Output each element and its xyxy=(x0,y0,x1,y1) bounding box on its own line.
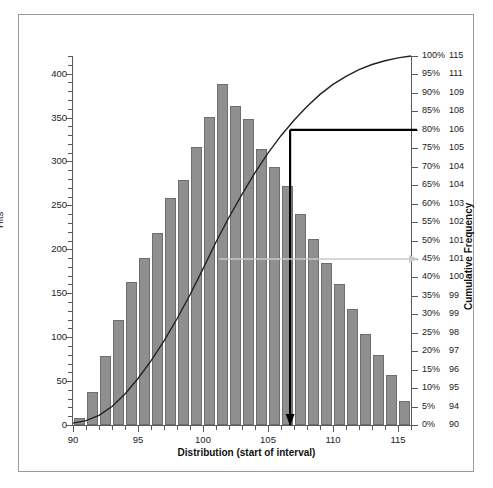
x-tick xyxy=(255,425,256,430)
x-tick xyxy=(372,425,373,430)
y2-tick xyxy=(412,370,418,371)
y2-tick-label: 5%94 xyxy=(422,401,459,411)
x-tick xyxy=(294,425,295,430)
y2-tick-label: 35%99 xyxy=(422,290,459,300)
cumulative-curve xyxy=(73,56,411,423)
x-tick-label: 115 xyxy=(390,434,405,445)
x-tick xyxy=(359,425,360,430)
x-tick xyxy=(164,425,165,430)
y-tick-label: 400 xyxy=(51,68,67,79)
plot-area: 050100150200250300350400 0%905%9410%9515… xyxy=(73,56,411,425)
y-tick-label: 0 xyxy=(62,419,67,430)
x-tick xyxy=(242,425,243,430)
x-axis-title: Distribution (start of interval) xyxy=(0,447,493,458)
y2-tick-label: 50%101 xyxy=(422,235,464,245)
x-tick xyxy=(138,425,139,432)
y-tick-label: 200 xyxy=(51,243,67,254)
x-tick-label: 90 xyxy=(68,434,79,445)
y2-tick xyxy=(412,388,418,389)
y2-tick-label: 20%97 xyxy=(422,345,459,355)
y-tick-label: 250 xyxy=(51,199,67,210)
x-tick xyxy=(112,425,113,430)
y-tick xyxy=(66,337,73,338)
x-tick xyxy=(216,425,217,430)
y2-tick xyxy=(412,167,418,168)
x-tick-label: 105 xyxy=(260,434,276,445)
x-tick xyxy=(177,425,178,430)
y-tick xyxy=(66,249,73,250)
y2-tick xyxy=(412,222,418,223)
x-tick xyxy=(320,425,321,430)
y-tick-label: 150 xyxy=(51,287,67,298)
y2-tick xyxy=(412,425,418,426)
y2-tick-label: 70%104 xyxy=(422,161,464,171)
y2-tick xyxy=(412,185,418,186)
y2-tick xyxy=(412,148,418,149)
y2-tick-label: 40%100 xyxy=(422,271,464,281)
y-tick-label: 350 xyxy=(51,112,67,123)
x-tick xyxy=(203,425,204,432)
x-tick xyxy=(411,425,412,430)
y-tick-label: 300 xyxy=(51,155,67,166)
x-tick xyxy=(398,425,399,432)
y2-tick xyxy=(412,407,418,408)
y2-tick-label: 90%109 xyxy=(422,87,464,97)
y2-tick-label: 65%104 xyxy=(422,179,464,189)
y2-tick xyxy=(412,74,418,75)
y2-tick xyxy=(412,296,418,297)
y2-tick xyxy=(412,111,418,112)
y-tick xyxy=(66,425,73,426)
y2-tick-label: 10%95 xyxy=(422,382,459,392)
y2-tick-label: 30%99 xyxy=(422,308,459,318)
y2-tick xyxy=(412,204,418,205)
marker-arrowhead xyxy=(286,414,295,426)
y2-tick xyxy=(412,277,418,278)
y-tick xyxy=(66,293,73,294)
y-tick xyxy=(66,161,73,162)
y-axis-title: Hits xyxy=(0,212,5,228)
y2-tick xyxy=(412,93,418,94)
y2-axis-title: Cumulative Frequency xyxy=(463,203,474,310)
x-tick-label: 95 xyxy=(133,434,144,445)
y2-tick-label: 85%108 xyxy=(422,105,464,115)
y2-tick xyxy=(412,351,418,352)
x-tick xyxy=(385,425,386,430)
curve-and-markers xyxy=(73,56,411,425)
y2-tick xyxy=(412,241,418,242)
percentile-markers xyxy=(219,130,418,426)
y2-tick-label: 100%115 xyxy=(422,50,463,60)
y2-tick xyxy=(412,314,418,315)
x-tick xyxy=(86,425,87,430)
y-tick xyxy=(66,118,73,119)
y-tick xyxy=(66,74,73,75)
x-tick xyxy=(281,425,282,430)
x-tick xyxy=(346,425,347,430)
x-tick xyxy=(125,425,126,430)
y2-tick-label: 0%90 xyxy=(422,419,459,429)
y2-tick-label: 60%103 xyxy=(422,198,464,208)
y-tick xyxy=(66,381,73,382)
y2-tick xyxy=(412,333,418,334)
x-tick xyxy=(190,425,191,430)
y2-tick-label: 45%101 xyxy=(422,253,464,263)
y2-tick-label: 25%98 xyxy=(422,327,459,337)
y2-tick-label: 95%111 xyxy=(422,68,463,78)
x-tick xyxy=(307,425,308,430)
x-tick xyxy=(333,425,334,432)
y-tick-label: 50 xyxy=(56,375,67,386)
y-tick-label: 100 xyxy=(51,331,67,342)
x-tick-label: 100 xyxy=(195,434,211,445)
x-tick xyxy=(229,425,230,430)
y2-tick xyxy=(412,56,418,57)
y2-tick-label: 80%106 xyxy=(422,124,464,134)
y2-tick-label: 15%96 xyxy=(422,364,459,374)
y-tick xyxy=(66,205,73,206)
y2-tick-label: 55%102 xyxy=(422,216,464,226)
x-tick-label: 110 xyxy=(325,434,340,445)
x-tick xyxy=(73,425,74,432)
x-tick xyxy=(268,425,269,432)
y2-tick-label: 75%105 xyxy=(422,142,464,152)
x-tick xyxy=(99,425,100,430)
x-tick xyxy=(151,425,152,430)
